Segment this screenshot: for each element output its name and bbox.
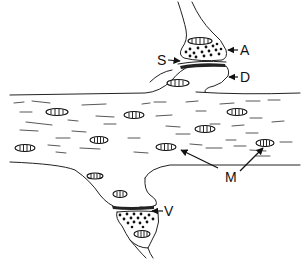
mitochondrion	[46, 109, 68, 116]
mitochondrion	[156, 144, 176, 151]
mitochondrion	[227, 109, 247, 116]
mitochondrion	[124, 112, 144, 119]
vesicles-bottom	[119, 213, 155, 229]
mitochondrion	[256, 140, 274, 147]
mitochondrion	[87, 173, 103, 179]
label-d: D	[240, 69, 250, 85]
vesicles-top	[185, 43, 223, 59]
axon-bottom-edge-right	[145, 165, 300, 178]
axon-shaft	[10, 66, 300, 208]
mitochondrion	[90, 137, 108, 144]
presynaptic-terminal-bottom	[87, 173, 159, 258]
diagram-canvas: A S D M V	[0, 0, 301, 260]
label-m: M	[225, 169, 237, 185]
arrow-s-icon	[168, 60, 180, 61]
label-v: V	[164, 203, 174, 219]
mitochondrion	[15, 145, 35, 152]
axon-top-edge-right	[196, 92, 300, 94]
label-s: S	[157, 52, 166, 68]
axon-bottom-edge-left	[10, 162, 118, 208]
mitochondrion-spine	[167, 80, 189, 87]
mitochondrion-terminal-top	[188, 38, 212, 45]
mitochondrion-terminal-bottom	[134, 231, 150, 238]
presynaptic-terminal-top	[178, 2, 227, 61]
arrow-m-right-icon	[240, 148, 263, 171]
synapse-diagram: A S D M V	[0, 0, 301, 260]
mitochondrion	[195, 126, 215, 133]
label-a: A	[240, 42, 250, 58]
mitochondrion	[113, 191, 127, 198]
axon-top-edge-left	[10, 66, 190, 95]
